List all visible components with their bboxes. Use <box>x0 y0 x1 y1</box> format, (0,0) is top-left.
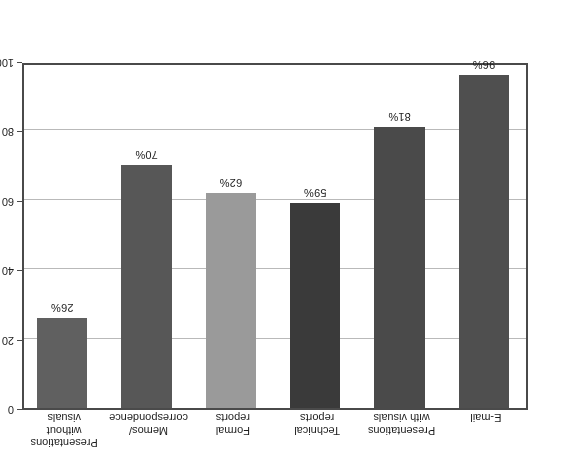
y-axis-tick-label: 100 <box>0 57 14 69</box>
y-axis-tick <box>17 201 22 202</box>
bar[interactable] <box>121 165 172 408</box>
bar-fill <box>206 193 257 408</box>
bar-fill <box>37 318 88 408</box>
y-axis-tick <box>17 340 22 341</box>
bar[interactable] <box>459 75 510 408</box>
y-axis-tick-label: 0 <box>8 404 14 416</box>
category-label: Technical reports <box>275 412 359 437</box>
bar-fill <box>290 203 341 408</box>
y-axis-tick <box>17 270 22 271</box>
y-axis: 020406080100 <box>0 63 22 410</box>
bar-fill <box>121 165 172 408</box>
category-label: Presentations without visuals <box>22 412 106 450</box>
y-axis-tick-label: 80 <box>2 126 14 138</box>
bar[interactable] <box>374 127 425 408</box>
category-axis-labels: E-mailPresentations with visualsTechnica… <box>22 410 528 430</box>
bar[interactable] <box>206 193 257 408</box>
y-axis-tick-label: 40 <box>2 265 14 277</box>
bars-container: 96%81%59%62%70%26% <box>24 65 526 408</box>
category-label: Formal reports <box>191 412 275 437</box>
plot-area: 96%81%59%62%70%26% <box>22 63 528 410</box>
y-axis-tick <box>17 62 22 63</box>
bar[interactable] <box>37 318 88 408</box>
bar-fill <box>459 75 510 408</box>
bar-value-label: 62% <box>206 177 257 189</box>
bar-value-label: 70% <box>121 149 172 161</box>
bar-fill <box>374 127 425 408</box>
y-axis-tick <box>17 131 22 132</box>
category-label: Presentations with visuals <box>359 412 443 437</box>
bar-value-label: 26% <box>37 302 88 314</box>
bar-value-label: 81% <box>374 111 425 123</box>
bar-value-label: 96% <box>459 59 510 71</box>
category-label: E-mail <box>444 412 528 425</box>
y-axis-tick-label: 20 <box>2 335 14 347</box>
y-axis-tick-label: 60 <box>2 196 14 208</box>
category-label: Memos/ correspondence <box>106 412 190 437</box>
bar-value-label: 59% <box>290 187 341 199</box>
bar[interactable] <box>290 203 341 408</box>
